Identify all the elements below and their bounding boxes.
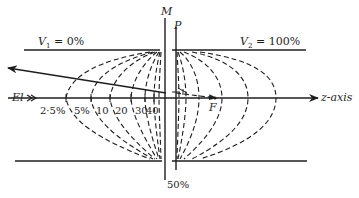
equipotential-label-40: 40 [146,106,159,116]
z-axis-label: z-axis [321,92,352,103]
equipotential-label-20: 20 [115,106,128,116]
v2-symbol: V [240,35,248,48]
plane-p-label: P [174,20,181,31]
equipotential-label-50: 50% [167,180,189,190]
left-electrode-label: V1 = 0% [38,36,84,50]
z-axis-text: z-axis [321,91,352,104]
plane-m-label: M [161,6,172,17]
right-equipotential-lines [177,52,276,159]
v2-value: = 100% [252,35,300,48]
v1-value: = 0% [50,35,84,48]
equipotential-label-5: 5% [74,106,90,116]
incoming-beam-label: El [12,92,24,103]
v1-symbol: V [38,35,46,48]
equipotential-label-2-5: 2·5% [40,106,65,116]
right-electrode-label: V2 = 100% [240,36,300,50]
equipotential-label-10: 10 [96,106,109,116]
focus-point [214,97,217,100]
focus-label: F [209,102,217,113]
